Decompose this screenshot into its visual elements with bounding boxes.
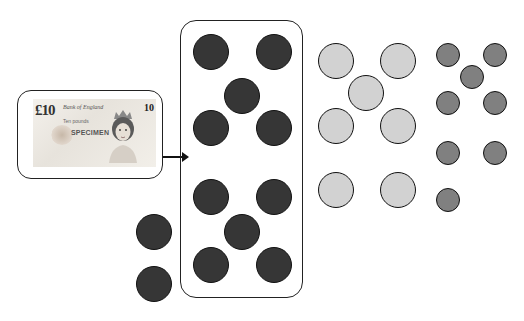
dark-outside-counter bbox=[136, 266, 172, 302]
dark-in-box-counter bbox=[256, 110, 292, 146]
portrait-icon bbox=[105, 107, 141, 163]
medium-counter bbox=[483, 43, 507, 67]
light-counter bbox=[348, 75, 384, 111]
medium-counter bbox=[460, 65, 484, 89]
dark-in-box-counter bbox=[193, 247, 229, 283]
dark-in-box-counter bbox=[193, 110, 229, 146]
banknote-denomination-corner: 10 bbox=[144, 102, 154, 113]
medium-counter bbox=[483, 91, 507, 115]
light-counter bbox=[318, 108, 354, 144]
medium-counter bbox=[436, 91, 460, 115]
banknote-denomination: £10 bbox=[35, 102, 55, 119]
dark-in-box-counter bbox=[224, 214, 260, 250]
dark-in-box-counter bbox=[193, 34, 229, 70]
medium-counter bbox=[436, 43, 460, 67]
dark-in-box-counter bbox=[224, 78, 260, 114]
light-counter bbox=[380, 43, 416, 79]
light-counter bbox=[318, 172, 354, 208]
banknote-issuer: Bank of England bbox=[63, 104, 103, 110]
banknote-specimen-label: SPECIMEN bbox=[71, 129, 109, 136]
dark-in-box-counter bbox=[256, 179, 292, 215]
dark-outside-counter bbox=[136, 214, 172, 250]
light-counter bbox=[318, 43, 354, 79]
dark-in-box-counter bbox=[256, 247, 292, 283]
banknote-caption: Ten pounds bbox=[63, 118, 89, 124]
medium-counter bbox=[436, 141, 460, 165]
dark-in-box-counter bbox=[193, 179, 229, 215]
banknote-ornament bbox=[51, 125, 73, 145]
light-counter bbox=[380, 108, 416, 144]
dark-in-box-counter bbox=[256, 34, 292, 70]
medium-counter bbox=[436, 188, 460, 212]
banknote-image: £10 Bank of England Ten pounds SPECIMEN … bbox=[33, 99, 156, 167]
light-counter bbox=[380, 172, 416, 208]
medium-counter bbox=[483, 141, 507, 165]
